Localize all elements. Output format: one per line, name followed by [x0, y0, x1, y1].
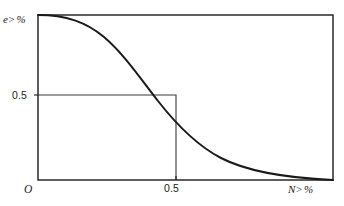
y-axis-label-unit: %: [16, 13, 26, 25]
x-axis-label-relation: >: [296, 183, 303, 195]
y-axis-label: e>%: [3, 14, 26, 25]
x-axis-label: N>%: [288, 184, 313, 195]
x-axis-label-symbol: N: [288, 183, 296, 195]
sigmoid-decay-curve: [38, 15, 333, 180]
origin-label: O: [24, 184, 32, 196]
plot-frame: [38, 15, 333, 180]
x-axis-label-unit: %: [303, 183, 313, 195]
plot-canvas: [0, 0, 344, 206]
half-half-reference-rectangle: [38, 95, 176, 180]
y-axis-tick-label-half: 0.5: [12, 90, 27, 101]
x-axis-tick-label-half: 0.5: [164, 183, 179, 194]
figure-container: e>% 0.5 O 0.5 N>%: [0, 0, 344, 206]
y-axis-label-relation: >: [8, 13, 15, 25]
